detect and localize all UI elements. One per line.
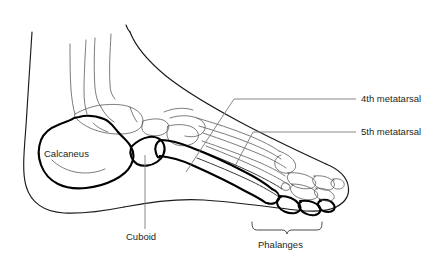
metatarsal-2-shaft	[203, 133, 286, 168]
cuneiform-lateral	[167, 125, 199, 146]
phalanges-brace	[252, 222, 322, 234]
metatarsal-1-shaft-lower	[199, 126, 281, 159]
sustentaculum-detail	[93, 123, 108, 132]
metatarsals-group	[155, 118, 295, 204]
cuneiform-medial	[164, 108, 193, 112]
label-phalanges: Phalanges	[258, 239, 303, 250]
metatarsal-5-shaft-lower	[160, 156, 266, 203]
fibula-shaft	[70, 44, 75, 114]
tibia-shaft-medial	[110, 34, 115, 99]
fibula-shaft-medial	[84, 40, 87, 114]
label-cuboid: Cuboid	[126, 231, 156, 242]
label-calcaneus: Calcaneus	[44, 148, 89, 159]
foot-anatomy-diagram: Calcaneus Cuboid 4th metatarsal 5th meta…	[0, 0, 441, 264]
sesamoid-detail	[281, 183, 290, 191]
metatarsal-1-head	[275, 151, 296, 173]
leader-lines-group	[145, 99, 356, 229]
navicular-outline	[142, 119, 169, 136]
shin-anterior-contour	[126, 25, 130, 32]
label-metatarsal-4: 4th metatarsal	[361, 93, 421, 104]
metatarsal-4-shaft-lower	[197, 158, 279, 197]
metatarsal-5-base-tuberosity	[155, 140, 161, 157]
phalanx-middle-5	[299, 201, 321, 215]
tibia-shaft-lateral	[94, 38, 101, 107]
talus-group	[75, 104, 169, 135]
calcaneus-inner-detail	[52, 160, 105, 173]
metatarsal-1-shaft	[197, 118, 279, 151]
talus-outline	[75, 104, 143, 134]
leg-bones-group	[70, 34, 115, 114]
label-metatarsal-5: 5th metatarsal	[361, 126, 421, 137]
foot-dorsum-contour	[130, 32, 326, 164]
phalanx-distal-upper	[331, 179, 344, 189]
metatarsal-5-shaft	[161, 140, 272, 189]
talus-head-line	[130, 107, 137, 122]
phalanges-brace-group	[252, 222, 322, 234]
